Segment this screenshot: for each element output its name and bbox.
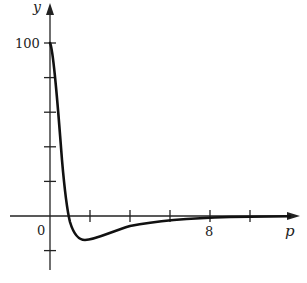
x-tick-label-8: 8 bbox=[205, 224, 213, 239]
chart: y 100 0 8 p bbox=[0, 0, 307, 283]
origin-label: 0 bbox=[37, 223, 45, 238]
x-axis-label: p bbox=[285, 222, 295, 240]
y-axis-label: y bbox=[32, 0, 42, 15]
y-axis-arrow-icon bbox=[46, 3, 54, 15]
y-tick-label-100: 100 bbox=[15, 36, 40, 51]
